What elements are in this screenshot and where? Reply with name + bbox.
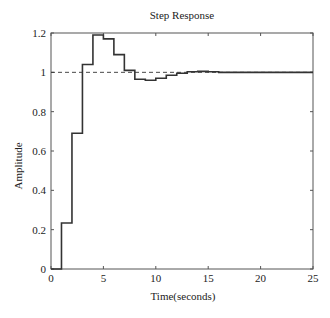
x-tick-label: 10	[150, 272, 162, 284]
x-tick-label: 15	[203, 272, 215, 284]
y-tick-label: 0.4	[32, 184, 46, 196]
y-tick-label: 0.2	[32, 224, 46, 236]
y-tick-label: 0	[41, 263, 47, 275]
x-tick-label: 0	[48, 272, 54, 284]
y-tick-label: 0.8	[32, 106, 46, 118]
y-axis-label: Amplitude	[12, 136, 24, 196]
y-tick-label: 1	[41, 66, 47, 78]
x-tick-label: 20	[255, 272, 267, 284]
axes: 051015202500.20.40.60.811.2	[32, 27, 319, 284]
figure-caption	[110, 309, 250, 318]
y-tick-label: 1.2	[32, 27, 46, 39]
x-axis-label: Time(seconds)	[52, 290, 314, 302]
x-tick-label: 25	[308, 272, 320, 284]
x-tick-label: 5	[101, 272, 107, 284]
plot-frame	[51, 33, 313, 269]
step-response-plot: 051015202500.20.40.60.811.2	[0, 0, 330, 318]
step-curve	[51, 35, 313, 269]
y-tick-label: 0.6	[32, 145, 46, 157]
